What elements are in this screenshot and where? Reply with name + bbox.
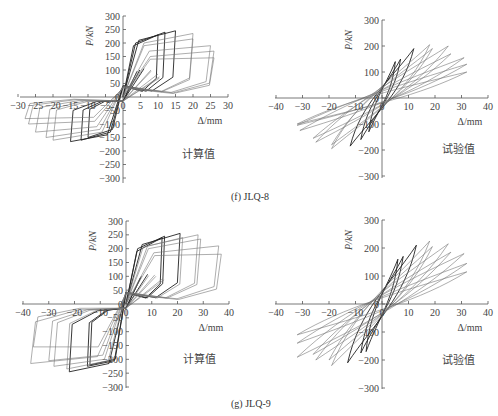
- chart-f-calc: −30−25−20−15−10−5051015202530−300−250−20…: [10, 11, 233, 184]
- y-tick-label: −100: [358, 119, 379, 130]
- y-tick-label: −300: [358, 383, 379, 394]
- y-tick-label: 150: [108, 257, 123, 268]
- y-tick-label: 200: [364, 41, 379, 52]
- y-tick-label: 100: [364, 271, 379, 282]
- series-annotation: 试验值: [442, 353, 475, 366]
- x-tick-label: −40: [268, 101, 284, 112]
- caption-g-jlq9: (g) JLQ-9: [231, 398, 271, 409]
- x-axis-label: Δ/mm: [199, 322, 224, 333]
- y-tick-label: 100: [105, 65, 120, 76]
- y-tick-label: 100: [364, 67, 379, 78]
- x-tick-label: 30: [198, 307, 208, 318]
- x-tick-label: −30: [41, 307, 57, 318]
- hysteresis-loop: [332, 45, 430, 149]
- x-tick-label: 30: [457, 101, 467, 112]
- x-axis-label: Δ/mm: [458, 116, 483, 127]
- x-tick-label: −25: [28, 100, 44, 111]
- hysteresis-loop: [67, 238, 183, 369]
- y-tick-label: −100: [102, 326, 123, 337]
- y-tick-label: 0: [374, 299, 379, 310]
- x-tick-label: 10: [404, 307, 414, 318]
- y-tick-label: 250: [108, 229, 123, 240]
- y-tick-label: −50: [107, 312, 123, 323]
- x-axis-label: Δ/mm: [198, 115, 223, 126]
- y-tick-label: 300: [364, 15, 379, 26]
- y-tick-label: −200: [102, 354, 123, 365]
- hysteresis-plots: −30−25−20−15−10−5051015202530−300−250−20…: [0, 0, 498, 416]
- hysteresis-loop: [329, 247, 432, 360]
- x-tick-label: 0: [380, 101, 385, 112]
- y-tick-label: −300: [102, 382, 123, 393]
- x-tick-label: 40: [483, 101, 493, 112]
- series-annotation: 计算值: [182, 147, 215, 160]
- x-tick-label: −15: [63, 100, 79, 111]
- x-tick-label: −10: [348, 101, 364, 112]
- y-tick-label: 300: [364, 215, 379, 226]
- x-tick-label: 0: [380, 307, 385, 318]
- y-tick-label: −50: [104, 105, 120, 116]
- series-annotation: 计算值: [183, 352, 216, 365]
- x-tick-label: −30: [295, 307, 311, 318]
- y-tick-label: 200: [108, 243, 123, 254]
- y-tick-label: 0: [115, 92, 120, 103]
- y-tick-label: 50: [110, 78, 120, 89]
- x-tick-label: −20: [67, 307, 83, 318]
- y-axis-label: P/kN: [343, 29, 354, 51]
- y-tick-label: −200: [358, 145, 379, 156]
- y-tick-label: −200: [358, 355, 379, 366]
- hysteresis-loop: [332, 241, 430, 366]
- x-tick-label: 10: [153, 100, 163, 111]
- x-tick-label: 40: [224, 307, 234, 318]
- y-axis-label: P/kN: [343, 229, 354, 251]
- y-tick-label: −300: [358, 171, 379, 182]
- x-tick-label: 20: [173, 307, 183, 318]
- x-tick-label: 20: [188, 100, 198, 111]
- y-tick-label: −100: [358, 327, 379, 338]
- x-tick-label: −20: [45, 100, 61, 111]
- chart-f-test: −40−30−20−10010203040−300−200−1000100200…: [268, 15, 493, 182]
- x-tick-label: 20: [430, 101, 440, 112]
- y-tick-label: 0: [374, 93, 379, 104]
- y-tick-label: −300: [99, 173, 120, 184]
- chart-g-calc: −40−30−20−10010203040−300−250−200−150−10…: [15, 216, 234, 393]
- x-tick-label: −20: [321, 307, 337, 318]
- hysteresis-loop: [31, 246, 219, 364]
- x-tick-label: 0: [121, 100, 126, 111]
- hysteresis-loop: [297, 254, 464, 358]
- y-tick-label: 300: [108, 216, 123, 227]
- y-tick-label: 200: [364, 243, 379, 254]
- x-axis-label: Δ/mm: [458, 322, 483, 333]
- x-tick-label: 30: [457, 307, 467, 318]
- series-annotation: 试验值: [442, 142, 475, 155]
- y-tick-label: −250: [99, 159, 120, 170]
- x-tick-label: −20: [321, 101, 337, 112]
- x-tick-label: −10: [92, 307, 108, 318]
- y-tick-label: −200: [99, 146, 120, 157]
- x-tick-label: −40: [268, 307, 284, 318]
- x-tick-label: 25: [206, 100, 216, 111]
- y-tick-label: 200: [105, 38, 120, 49]
- x-tick-label: 30: [223, 100, 233, 111]
- y-axis-label: P/kN: [87, 230, 98, 252]
- x-tick-label: 10: [147, 307, 157, 318]
- y-tick-label: 150: [105, 51, 120, 62]
- x-tick-label: 5: [138, 100, 143, 111]
- y-tick-label: 50: [113, 285, 123, 296]
- x-tick-label: 40: [483, 307, 493, 318]
- chart-g-test: −40−30−20−10010203040−300−200−1000100200…: [268, 215, 493, 394]
- y-tick-label: 300: [105, 11, 120, 22]
- x-tick-label: −30: [295, 101, 311, 112]
- x-tick-label: −10: [348, 307, 364, 318]
- y-axis-label: P/kN: [84, 25, 95, 47]
- x-tick-label: −30: [10, 100, 26, 111]
- y-tick-label: −150: [99, 132, 120, 143]
- x-tick-label: 15: [171, 100, 181, 111]
- y-tick-label: −100: [99, 119, 120, 130]
- hysteresis-figure: −30−25−20−15−10−5051015202530−300−250−20…: [0, 0, 498, 416]
- x-tick-label: −40: [15, 307, 31, 318]
- y-tick-label: 250: [105, 24, 120, 35]
- x-tick-label: 20: [430, 307, 440, 318]
- x-tick-label: −10: [80, 100, 96, 111]
- y-tick-label: −250: [102, 368, 123, 379]
- x-tick-label: 0: [124, 307, 129, 318]
